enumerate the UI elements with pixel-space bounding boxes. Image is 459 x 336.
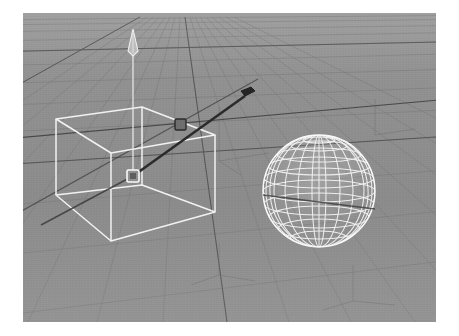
- screenshot-root: [0, 0, 459, 336]
- manipulator-center-inner: [130, 173, 136, 179]
- viewport-canvas[interactable]: [23, 13, 436, 322]
- viewport-3d[interactable]: [23, 13, 436, 322]
- manipulator-x-box-handle[interactable]: [175, 119, 186, 130]
